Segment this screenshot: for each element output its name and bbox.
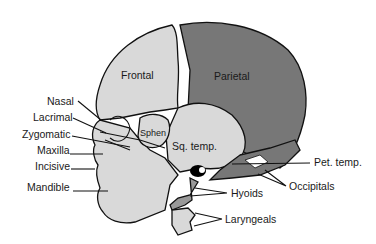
label-mandible: Mandible	[27, 181, 70, 193]
label-incisive: Incisive	[35, 160, 70, 172]
laryngeal-cartilages	[172, 208, 195, 235]
label-sphen: Sphen	[140, 128, 166, 138]
hyoid-bones	[170, 178, 198, 210]
label-occipitals: Occipitals	[289, 180, 335, 192]
label-sq-temp: Sq. temp.	[172, 140, 217, 152]
label-nasal: Nasal	[47, 95, 74, 107]
skull-diagram: Frontal Parietal Sphen Sq. temp. Nasal L…	[0, 0, 376, 244]
label-frontal: Frontal	[121, 69, 154, 81]
label-pet-temp: Pet. temp.	[314, 156, 362, 168]
label-zygomatic: Zygomatic	[22, 128, 70, 140]
label-parietal: Parietal	[214, 70, 250, 82]
label-maxilla: Maxilla	[37, 144, 70, 156]
label-laryngeals: Laryngeals	[225, 213, 276, 225]
label-lacrimal: Lacrimal	[33, 111, 73, 123]
label-hyoids: Hyoids	[231, 187, 263, 199]
